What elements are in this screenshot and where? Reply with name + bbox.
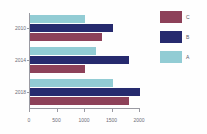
x-tick-label-2000: 2000 (133, 117, 144, 123)
bar-2010-c (30, 33, 102, 41)
x-tick-label-500: 500 (52, 117, 60, 123)
legend-item-a[interactable]: A (160, 51, 204, 64)
bar-2014-b (30, 56, 129, 64)
legend-label-a: A (186, 54, 189, 60)
bar-2018-b (30, 88, 140, 96)
legend-swatch-b (160, 31, 182, 43)
y-tick-label-2010: 2010 (15, 25, 26, 31)
bar-2010-a (30, 15, 85, 23)
x-tick-1000 (84, 109, 85, 112)
y-tick-label-2018: 2018 (15, 89, 26, 95)
y-tick-label-2014: 2014 (15, 57, 26, 63)
y-tick-2014 (27, 60, 30, 61)
legend-swatch-c (160, 11, 182, 23)
legend-swatch-a (160, 51, 182, 63)
x-tick-label-0: 0 (28, 117, 31, 123)
x-tick-label-1000: 1000 (78, 117, 89, 123)
y-tick-2018 (27, 92, 30, 93)
legend: C B A (160, 11, 204, 71)
bar-2010-b (30, 24, 113, 32)
x-tick-label-1500: 1500 (106, 117, 117, 123)
bar-group-2014: 2014 (30, 47, 140, 75)
legend-label-c: C (186, 14, 190, 20)
bar-chart: 2010 2014 2018 0500100015002000 C B (0, 0, 207, 134)
x-tick-2000 (139, 109, 140, 112)
x-tick-1500 (112, 109, 113, 112)
legend-item-c[interactable]: C (160, 11, 204, 24)
x-tick-500 (57, 109, 58, 112)
y-tick-2010 (27, 28, 30, 29)
bar-2018-c (30, 97, 129, 105)
plot-area: 2010 2014 2018 0500100015002000 (29, 13, 140, 109)
legend-label-b: B (186, 34, 189, 40)
bar-2014-c (30, 65, 85, 73)
x-tick-0 (29, 109, 30, 112)
bar-group-2018: 2018 (30, 79, 140, 107)
legend-item-b[interactable]: B (160, 31, 204, 44)
bar-2014-a (30, 47, 96, 55)
bar-group-2010: 2010 (30, 15, 140, 43)
bar-2018-a (30, 79, 113, 87)
